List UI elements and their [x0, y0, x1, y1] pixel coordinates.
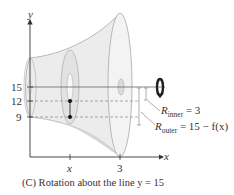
- r-inner-label: Rinner = 3: [161, 104, 200, 119]
- x-tick-3: 3: [117, 163, 123, 174]
- r-outer-label: Router = 15 − f(x): [155, 120, 228, 135]
- r-inner-sub: inner: [168, 110, 183, 119]
- point-inner: [68, 99, 72, 103]
- r-outer-sub: outer: [162, 126, 177, 135]
- y-tick-15: 15: [11, 82, 22, 93]
- y-tick-9: 9: [16, 112, 22, 123]
- y-tick-12: 12: [11, 96, 22, 107]
- x-tick-x: x: [67, 163, 72, 174]
- figure-caption: (C) Rotation about the line y = 15: [22, 177, 164, 188]
- solid-body: [24, 13, 132, 157]
- point-outer: [68, 115, 72, 119]
- r-inner-value: = 3: [183, 104, 200, 116]
- rotation-arrow-icon: [157, 79, 163, 97]
- x-axis-label: x: [164, 151, 169, 162]
- r-outer-symbol: R: [155, 120, 162, 132]
- y-axis-label: y: [28, 9, 33, 20]
- r-inner-symbol: R: [161, 104, 168, 116]
- r-outer-value: = 15 − f(x): [177, 120, 228, 132]
